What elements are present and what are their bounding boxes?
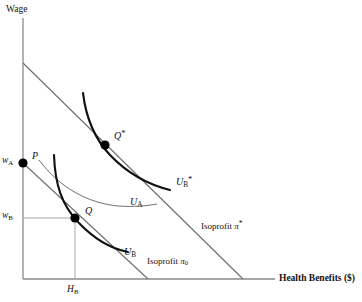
benefits-label-HB: HB — [67, 285, 78, 295]
curve-label-UA: UA — [130, 197, 142, 209]
point-Q-star — [100, 140, 109, 149]
benefits-label-HB-base: H — [67, 284, 74, 294]
curve-label-UB-sub: B — [131, 251, 136, 259]
wage-label-wA-sub: A — [8, 159, 13, 166]
point-label-Q: Q — [85, 206, 92, 216]
isoprofit-label-pi-star-mark: * — [239, 219, 243, 228]
indifference-curve-UB-star — [83, 93, 170, 190]
benefits-label-HB-sub: B — [74, 288, 79, 295]
y-axis-title: Wage — [6, 5, 27, 15]
point-Q — [70, 213, 79, 222]
point-label-Q-star-mark: * — [121, 128, 125, 138]
wage-label-wA: wA — [2, 156, 13, 166]
point-P — [18, 158, 27, 167]
isoprofit-label-pi-zero-sub: 0 — [185, 259, 188, 266]
point-label-Q-star: Q* — [114, 129, 125, 141]
isoprofit-label-pi-star-text: Isoprofit — [201, 221, 234, 231]
x-axis-title: Health Benefits ($) — [279, 274, 355, 284]
indifference-curve-UB — [54, 155, 128, 252]
point-label-P: P — [32, 151, 38, 161]
wage-label-wB-sub: B — [8, 214, 13, 221]
isoprofit-pi-zero-line — [23, 163, 148, 279]
isoprofit-label-pi-star: Isoprofit π* — [201, 220, 243, 231]
curve-label-UB: UB — [124, 247, 136, 259]
curve-label-UA-sub: A — [137, 201, 142, 209]
isoprofit-label-pi-zero: Isoprofit π0 — [147, 257, 188, 267]
wage-label-wB: wB — [2, 211, 13, 221]
curve-label-UB-star: UB* — [176, 175, 192, 189]
curve-label-UB-star-mark: * — [188, 174, 192, 184]
isoprofit-label-pi-zero-text: Isoprofit — [147, 256, 180, 266]
economics-diagram: Wage Health Benefits ($) wA wB HB P Q Q*… — [0, 0, 362, 302]
